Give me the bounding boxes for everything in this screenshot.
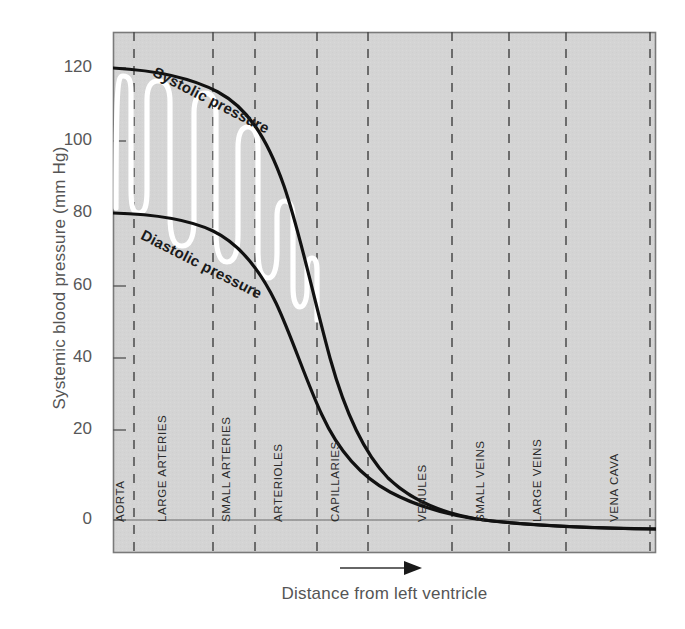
chart-canvas (0, 0, 685, 629)
y-tick-80: 80 (32, 202, 92, 222)
segment-label-aorta: AORTA (114, 480, 126, 522)
segment-label-vena-cava: VENA CAVA (608, 453, 620, 522)
y-tick-20: 20 (32, 419, 92, 439)
y-tick-60: 60 (32, 275, 92, 295)
y-tick-0: 0 (32, 509, 92, 529)
segment-label-capillaries: CAPILLARIES (329, 441, 341, 522)
y-tick-120: 120 (32, 57, 92, 77)
y-tick-40: 40 (32, 347, 92, 367)
segment-label-large-veins: LARGE VEINS (531, 439, 543, 522)
segment-label-small-arteries: SMALL ARTERIES (220, 416, 232, 522)
blood-pressure-figure: Systemic blood pressure (mm Hg) 120 100 … (0, 0, 685, 629)
segment-label-small-veins: SMALL VEINS (474, 440, 486, 522)
segment-label-large-arteries: LARGE ARTERIES (156, 415, 168, 522)
segment-label-venules: VENULES (416, 464, 428, 522)
direction-arrow-icon (340, 561, 422, 575)
y-tick-100: 100 (32, 130, 92, 150)
x-axis-title: Distance from left ventricle (113, 584, 656, 604)
segment-label-arterioles: ARTERIOLES (272, 443, 284, 522)
